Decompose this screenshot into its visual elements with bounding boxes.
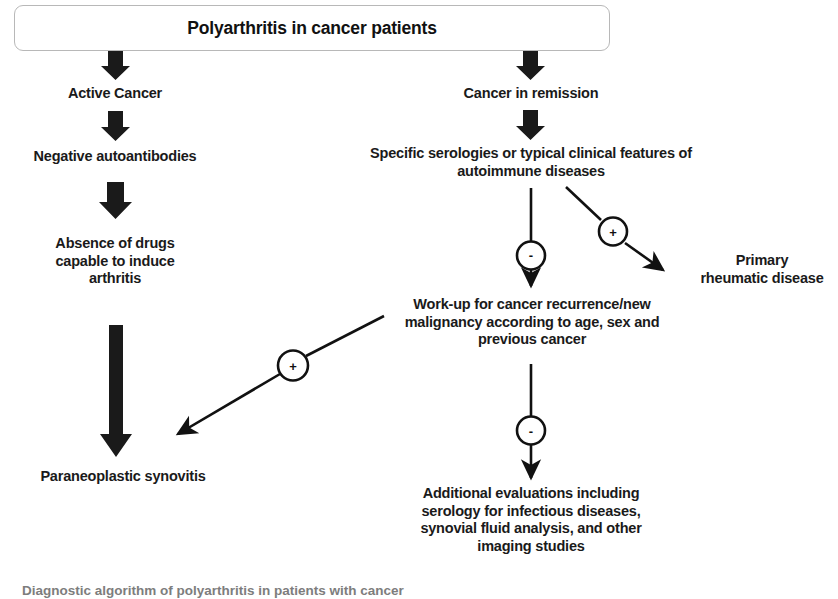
node-paraneoplastic-synovitis: Paraneoplastic synovitis <box>10 468 236 486</box>
node-active-cancer: Active Cancer <box>30 85 200 103</box>
node-absence-of-drugs: Absence of drugs capable to induce arthr… <box>20 235 210 288</box>
diagram-title-box: Polyarthritis in cancer patients <box>14 5 610 51</box>
sign-node-serology-positive-label: + <box>609 225 617 240</box>
sign-node-workup-positive-label: + <box>289 359 297 374</box>
node-additional-evaluations: Additional evaluations including serolog… <box>382 485 680 556</box>
node-negative-autoantibodies: Negative autoantibodies <box>8 148 222 166</box>
node-specific-serologies: Specific serologies or typical clinical … <box>362 145 700 180</box>
arrow-workup-to-paraneoplastic <box>178 316 384 434</box>
sign-node-workup-negative-label: - <box>529 424 533 439</box>
figure-caption: Diagnostic algorithm of polyarthritis in… <box>22 583 722 598</box>
sign-node-workup-negative: - <box>517 417 545 445</box>
diagram-canvas: - + - + <box>0 0 838 599</box>
arrow-title-to-remission <box>516 50 545 80</box>
node-primary-rheumatic-disease: Primary rheumatic disease <box>690 252 834 287</box>
arrow-absence-drugs-to-paraneoplastic <box>100 325 132 457</box>
sign-node-serology-negative: - <box>517 242 545 270</box>
node-cancer-in-remission: Cancer in remission <box>370 85 692 103</box>
arrow-autoantibodies-to-absence-drugs <box>99 182 132 219</box>
arrow-serologies-to-primary-rheumatic <box>566 187 663 270</box>
diagram-title: Polyarthritis in cancer patients <box>187 18 436 39</box>
arrow-title-to-active-cancer <box>101 50 130 80</box>
arrow-remission-to-serologies <box>516 110 545 140</box>
sign-node-serology-negative-label: - <box>529 248 533 263</box>
sign-node-serology-positive: + <box>599 218 627 246</box>
arrow-active-cancer-to-autoantibodies <box>101 111 130 141</box>
node-workup-cancer-recurrence: Work-up for cancer recurrence/new malign… <box>382 296 682 349</box>
sign-node-workup-positive: + <box>278 351 308 381</box>
